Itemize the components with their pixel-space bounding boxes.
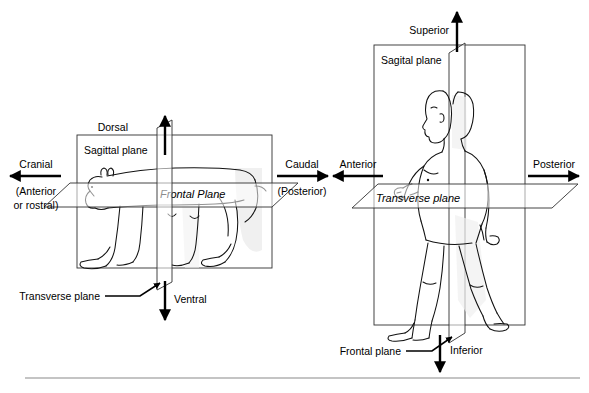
right-axis-anterior-label: Anterior — [340, 158, 377, 170]
left-axis-ventral: Ventral — [165, 281, 207, 320]
left-transverse-plane-label: Transverse plane — [19, 290, 100, 302]
diagram-canvas: Frontal Plane Sagittal plane Dorsal Vent… — [0, 0, 589, 393]
right-sagittal-plane-label: Sagital plane — [381, 54, 442, 66]
left-transverse-plane-callout: Transverse plane — [19, 283, 160, 302]
left-axis-cranial: Cranial (Anterior or rostral) — [10, 158, 61, 211]
left-axis-caudal-label: Caudal — [285, 158, 318, 170]
left-axis-caudal-sub1: (Posterior) — [277, 185, 326, 197]
right-axis-superior-label: Superior — [409, 24, 449, 36]
anatomical-planes-figure: Frontal Plane Sagittal plane Dorsal Vent… — [0, 0, 589, 393]
right-axis-anterior: Anterior — [333, 158, 383, 176]
left-axis-cranial-label: Cranial — [19, 158, 52, 170]
left-axis-ventral-label: Ventral — [174, 293, 207, 305]
right-axis-inferior-label: Inferior — [450, 344, 483, 356]
left-axis-cranial-sub1: (Anterior — [16, 185, 57, 197]
right-frontal-plane-callout: Frontal plane — [340, 337, 452, 357]
left-diagram-group: Frontal Plane Sagittal plane Dorsal Vent… — [10, 116, 328, 320]
right-axis-posterior-label: Posterior — [533, 158, 576, 170]
left-sagittal-plane-label: Sagittal plane — [84, 144, 148, 156]
right-diagram-group: Transverse plane Sagital plane Superior … — [333, 12, 579, 372]
left-axis-dorsal-label: Dorsal — [98, 121, 128, 133]
left-axis-cranial-sub2: or rostral) — [14, 199, 59, 211]
right-frontal-plane-label: Frontal plane — [340, 345, 401, 357]
right-transverse-plane-label: Transverse plane — [376, 192, 460, 204]
right-axis-posterior: Posterior — [528, 158, 579, 176]
right-axis-superior: Superior — [409, 12, 457, 52]
human-figure — [388, 91, 509, 342]
